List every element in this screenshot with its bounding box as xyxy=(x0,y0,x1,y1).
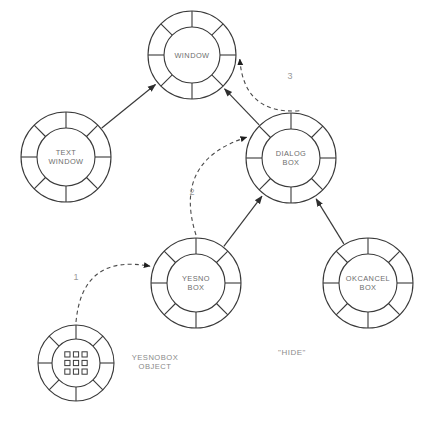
node-spoke xyxy=(389,251,400,262)
node-spoke xyxy=(87,178,98,189)
inheritance-edge-okcancel-box-to-dialog-box xyxy=(316,199,344,244)
class-hierarchy-diagram: WINDOWTEXTWINDOWDIALOGBOXYESNOBOXOKCANCE… xyxy=(0,0,427,426)
node-spoke xyxy=(161,75,172,86)
node-spoke xyxy=(93,380,103,390)
node-spoke xyxy=(34,125,45,136)
node-yesno-box[interactable]: YESNOBOX xyxy=(151,238,241,328)
instance-grid-cell xyxy=(73,352,78,357)
hide-annotation: "HIDE" xyxy=(278,348,306,357)
node-spoke xyxy=(336,251,347,262)
inheritance-edge-text-window-to-window xyxy=(102,85,156,128)
node-spoke xyxy=(49,336,59,346)
message-edge-message-1 xyxy=(76,264,150,322)
node-label-yesno-box: BOX xyxy=(188,283,205,292)
instance-grid-cell xyxy=(65,369,70,374)
node-spoke xyxy=(164,304,175,315)
node-spoke xyxy=(93,336,103,346)
node-spoke xyxy=(212,75,223,86)
node-spoke xyxy=(217,251,228,262)
node-label-window: WINDOW xyxy=(174,51,209,60)
message-edge-message-2 xyxy=(190,137,246,235)
node-label-text-window: TEXT xyxy=(56,148,77,157)
node-spoke xyxy=(259,179,270,190)
instance-grid-cell xyxy=(65,360,70,365)
node-okcancel-box[interactable]: OKCANCELBOX xyxy=(323,238,413,328)
node-spoke xyxy=(312,126,323,137)
node-window[interactable]: WINDOW xyxy=(148,11,236,99)
node-text-window[interactable]: TEXTWINDOW xyxy=(21,112,111,202)
node-spoke xyxy=(259,126,270,137)
external-label-yesnobox-object-label: OBJECT xyxy=(139,362,172,371)
instance-grid-cell xyxy=(82,360,87,365)
node-spoke xyxy=(87,125,98,136)
inheritance-edge-dialog-box-to-window xyxy=(225,89,260,125)
node-spoke xyxy=(164,251,175,262)
message-edge-message-3 xyxy=(240,59,300,111)
nodes-layer: WINDOWTEXTWINDOWDIALOGBOXYESNOBOXOKCANCE… xyxy=(21,11,413,401)
node-label-text-window: WINDOW xyxy=(48,157,83,166)
labels-layer: 123YESNOBOXOBJECT"HIDE" xyxy=(73,71,305,371)
node-spoke xyxy=(336,304,347,315)
instance-grid-cell xyxy=(73,369,78,374)
node-spoke xyxy=(217,304,228,315)
instance-grid-cell xyxy=(73,360,78,365)
node-inner-ring xyxy=(52,339,100,387)
instance-grid-cell xyxy=(65,352,70,357)
node-label-dialog-box: BOX xyxy=(283,158,300,167)
instance-grid-cell xyxy=(82,352,87,357)
diagram-root: WINDOWTEXTWINDOWDIALOGBOXYESNOBOXOKCANCE… xyxy=(0,0,427,426)
node-spoke xyxy=(34,178,45,189)
node-label-yesno-box: YESNO xyxy=(182,274,210,283)
message-number-2: 2 xyxy=(189,187,194,197)
inheritance-edge-yesno-box-to-dialog-box xyxy=(224,196,262,246)
external-label-yesnobox-object-label: YESNOBOX xyxy=(132,353,179,362)
node-spoke xyxy=(389,304,400,315)
node-spoke xyxy=(49,380,59,390)
instance-grid-cell xyxy=(82,369,87,374)
node-label-dialog-box: DIALOG xyxy=(276,149,307,158)
node-label-okcancel-box: BOX xyxy=(360,283,377,292)
message-number-1: 1 xyxy=(73,272,78,282)
node-label-okcancel-box: OKCANCEL xyxy=(346,274,390,283)
node-dialog-box[interactable]: DIALOGBOX xyxy=(246,113,336,203)
message-number-3: 3 xyxy=(287,71,292,81)
node-spoke xyxy=(212,24,223,35)
node-spoke xyxy=(161,24,172,35)
node-yesnobox-object[interactable] xyxy=(38,325,114,401)
node-spoke xyxy=(312,179,323,190)
